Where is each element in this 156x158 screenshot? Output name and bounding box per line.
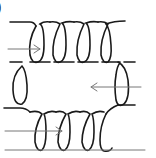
top-coil (10, 21, 125, 62)
top-arrow-icon (8, 45, 40, 53)
bottom-arrow-icon (5, 127, 62, 135)
right-arrow-icon (91, 83, 141, 91)
left-coil (4, 62, 30, 112)
coil-diagram (0, 0, 156, 158)
right-coil (106, 62, 135, 114)
